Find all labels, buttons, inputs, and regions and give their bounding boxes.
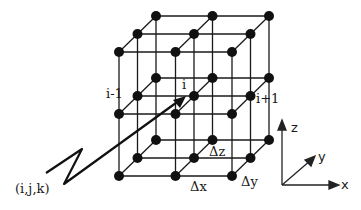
grid-node [208,11,218,21]
label-i: i [182,78,186,91]
label-i-plus-1: i+1 [256,92,279,105]
grid-node [246,91,256,101]
grid-node [264,11,274,21]
label-delta-z: Δz [209,145,225,158]
label-delta-y: Δy [241,175,258,188]
z-arrow-icon [278,120,286,130]
grid-node [246,29,256,39]
grid-node [246,153,256,163]
axis-label-x: x [341,178,349,191]
label-delta-x: Δx [190,180,207,193]
grid-node [227,47,237,57]
grid-node [133,153,143,163]
grid-node [189,153,199,163]
grid-node [264,73,274,83]
grid-node [133,91,143,101]
grid-node [227,171,237,181]
x-arrow-icon [329,181,339,189]
grid-node [114,171,124,181]
axis-label-y: y [318,150,326,163]
grid-node [189,91,199,101]
grid-diagram [0,0,361,210]
grid-node [151,135,161,145]
grid-node [114,109,124,119]
label-i-minus-1: i-1 [106,87,123,100]
grid-node [133,29,143,39]
grid-node [171,109,181,119]
grid-node [264,135,274,145]
grid-nodes [114,11,274,181]
grid-node [151,73,161,83]
coordinate-axes [278,120,339,189]
grid-node [151,11,161,21]
grid-node [171,47,181,57]
grid-node [189,29,199,39]
grid-node [208,73,218,83]
grid-node [227,109,237,119]
grid-node [114,47,124,57]
axis-label-z: z [291,121,298,134]
grid-node [171,171,181,181]
label-index: (i,j,k) [15,182,49,195]
